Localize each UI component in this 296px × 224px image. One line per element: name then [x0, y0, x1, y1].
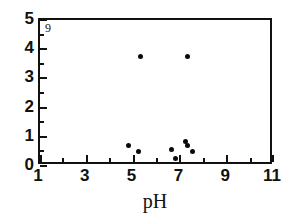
x-tick-minor: [109, 158, 111, 162]
x-tick-label: 9: [205, 167, 245, 184]
y-axis-tick-labels: 012345: [0, 18, 34, 164]
x-tick-minor: [156, 158, 158, 162]
x-tick-major: [226, 155, 228, 162]
x-tick-label: 11: [252, 167, 292, 184]
data-point: [173, 156, 178, 161]
x-tick-major: [133, 155, 135, 162]
y-tick-label: 4: [4, 39, 34, 56]
data-point: [169, 147, 174, 152]
x-tick-major: [40, 155, 42, 162]
y-tick-label: 5: [4, 10, 34, 27]
plot-area: 9: [38, 18, 272, 164]
y-tick-label: 1: [4, 126, 34, 143]
y-tick-label: 3: [4, 68, 34, 85]
x-tick-major: [179, 155, 181, 162]
data-point: [185, 143, 190, 148]
y-tick-label: 2: [4, 97, 34, 114]
x-tick-minor: [250, 158, 252, 162]
data-point: [126, 143, 131, 148]
x-tick-major: [86, 155, 88, 162]
y-tick-major: [40, 107, 47, 109]
x-axis-tick-labels: 1357911: [38, 167, 272, 189]
scatter-plot-figure: 9 012345 1357911 pH: [0, 0, 296, 224]
y-tick-minor: [40, 150, 44, 152]
data-point: [190, 149, 195, 154]
data-point: [138, 54, 143, 59]
y-tick-major: [40, 136, 47, 138]
x-tick-minor: [62, 158, 64, 162]
y-tick-major: [40, 19, 47, 21]
x-tick-label: 3: [65, 167, 105, 184]
y-tick-minor: [40, 63, 44, 65]
y-tick-minor: [40, 92, 44, 94]
panel-label: 9: [45, 22, 51, 34]
x-tick-label: 7: [158, 167, 198, 184]
y-tick-minor: [40, 34, 44, 36]
x-tick-major: [272, 155, 274, 162]
x-axis-title: pH: [38, 191, 272, 211]
y-tick-major: [40, 48, 47, 50]
x-tick-label: 5: [112, 167, 152, 184]
y-tick-major: [40, 77, 47, 79]
data-point: [136, 149, 141, 154]
x-tick-label: 1: [18, 167, 58, 184]
x-tick-minor: [203, 158, 205, 162]
data-point: [185, 54, 190, 59]
y-tick-minor: [40, 121, 44, 123]
